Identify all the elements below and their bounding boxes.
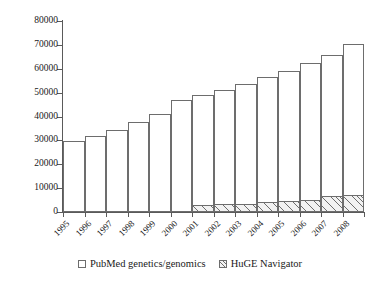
x-axis-tick [214,212,215,217]
x-axis-tick-label: 1995 [47,219,72,244]
x-axis-tick-label: 2007 [305,219,330,244]
x-axis-tick-label: 2001 [176,219,201,244]
bar-pubmed-genetics-genomics [128,122,150,212]
x-axis-tick-label: 1998 [111,219,136,244]
legend-swatch-empty-square-icon [78,260,86,268]
x-axis-tick-label: 1999 [133,219,158,244]
x-axis-tick [257,212,258,217]
bar-pubmed-genetics-genomics [106,130,128,212]
bar-huge-navigator [214,204,236,212]
bar-pubmed-genetics-genomics [300,63,322,212]
x-axis-tick-label: 2003 [219,219,244,244]
y-axis-tick-label: 80000 [34,16,58,26]
y-axis-tick-label: 0 [53,207,58,217]
bar-pubmed-genetics-genomics [235,84,257,212]
x-axis-tick [171,212,172,217]
bar-huge-navigator [192,205,214,212]
x-axis-tick [192,212,193,217]
bar-huge-navigator [300,200,322,212]
x-axis-tick-label: 2002 [197,219,222,244]
bar-pubmed-genetics-genomics [343,44,365,212]
x-axis-tick [85,212,86,217]
y-axis-tick-label: 30000 [34,135,58,145]
legend-swatch-hatched-square-icon [219,260,227,268]
bar-pubmed-genetics-genomics [278,71,300,212]
bar-pubmed-genetics-genomics [63,141,85,212]
bar-pubmed-genetics-genomics [321,55,343,212]
x-axis-tick [300,212,301,217]
y-axis-tick-label: 10000 [34,183,58,193]
x-axis-tick-label: 1997 [90,219,115,244]
bar-pubmed-genetics-genomics [85,136,107,212]
plot-area [63,21,364,212]
bar-huge-navigator [278,201,300,212]
x-axis-tick-label: 2005 [262,219,287,244]
y-axis-tick-label: 20000 [34,159,58,169]
bar-pubmed-genetics-genomics [171,100,193,212]
x-axis-tick [321,212,322,217]
legend-item-pubmed: PubMed genetics/genomics [78,258,206,269]
x-axis-tick [364,212,365,217]
x-axis-tick-label: 1996 [68,219,93,244]
x-axis-tick [106,212,107,217]
legend-item-huge-navigator: HuGE Navigator [219,258,302,269]
x-axis-tick [235,212,236,217]
chart-figure: 0100002000030000400005000060000700008000… [0,0,380,286]
bar-huge-navigator [321,196,343,212]
y-axis-tick-label: 60000 [34,64,58,74]
bar-huge-navigator [235,204,257,212]
y-axis-tick-label: 70000 [34,40,58,50]
x-axis-tick [149,212,150,217]
bar-pubmed-genetics-genomics [214,90,236,212]
x-axis-tick [63,212,64,217]
bar-pubmed-genetics-genomics [257,77,279,212]
x-axis-tick-label: 2006 [283,219,308,244]
bar-pubmed-genetics-genomics [192,95,214,212]
x-axis-tick-label: 2004 [240,219,265,244]
chart-legend: PubMed genetics/genomics HuGE Navigator [0,258,380,269]
x-axis-tick-label: 2008 [326,219,351,244]
legend-label-huge-navigator: HuGE Navigator [231,258,302,269]
legend-label-pubmed: PubMed genetics/genomics [90,258,206,269]
bar-pubmed-genetics-genomics [149,114,171,212]
bar-huge-navigator [257,202,279,212]
y-axis-tick-label: 40000 [34,112,58,122]
bar-huge-navigator [343,195,365,212]
x-axis-tick [128,212,129,217]
y-axis-tick-label: 50000 [34,88,58,98]
x-axis-tick-label: 2000 [154,219,179,244]
x-axis-tick [343,212,344,217]
x-axis-tick [278,212,279,217]
